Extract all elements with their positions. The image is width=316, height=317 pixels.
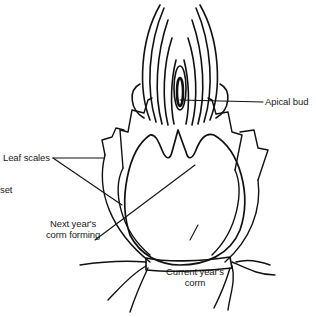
label-current-year-line1: Current year's	[155, 266, 235, 277]
label-next-year-line1: Next year's	[38, 218, 108, 229]
label-next-year-corm: Next year's corm forming	[38, 218, 108, 240]
label-current-year-corm: Current year's corm	[155, 266, 235, 288]
label-current-year-line2: corm	[155, 277, 235, 288]
label-cormlet-partial: set	[0, 184, 12, 195]
corm-body	[125, 130, 245, 265]
label-leaf-scales: Leaf scales	[3, 152, 50, 163]
leader-leaf-scales-2	[53, 158, 122, 205]
leader-current-year-corm	[190, 225, 198, 240]
leader-next-year-corm	[95, 165, 195, 240]
label-next-year-line2: corm forming	[38, 229, 108, 240]
label-apical-bud: Apical bud	[265, 96, 308, 107]
corm-diagram: Apical bud Leaf scales set Next year's c…	[0, 0, 316, 317]
leader-apical-bud	[180, 100, 263, 102]
